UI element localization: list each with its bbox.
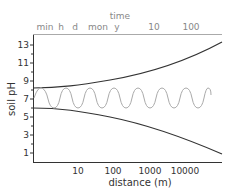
svg-text:h: h xyxy=(58,22,64,32)
svg-text:10000: 10000 xyxy=(171,166,200,176)
svg-text:3: 3 xyxy=(23,130,29,140)
svg-text:mon: mon xyxy=(88,22,108,32)
svg-text:d: d xyxy=(72,22,78,32)
y-axis-ticks xyxy=(30,45,33,153)
upper-envelope-line xyxy=(33,42,222,88)
chart: time min h d mon y 10 100 13 11 9 7 5 3 … xyxy=(0,0,233,195)
svg-text:7: 7 xyxy=(23,94,29,104)
x-axis-labels: 10 100 1000 10000 xyxy=(72,166,199,176)
svg-text:5: 5 xyxy=(23,112,29,122)
svg-text:min: min xyxy=(37,22,54,32)
top-axis-title: time xyxy=(110,11,131,21)
svg-text:y: y xyxy=(114,22,120,32)
svg-text:1000: 1000 xyxy=(139,166,162,176)
svg-text:100: 100 xyxy=(182,22,199,32)
svg-text:100: 100 xyxy=(104,166,121,176)
svg-text:10: 10 xyxy=(148,22,160,32)
y-axis-labels: 13 11 9 7 5 3 1 xyxy=(18,40,30,158)
svg-text:9: 9 xyxy=(23,76,29,86)
y-axis-title: soil pH xyxy=(6,82,17,116)
lower-envelope-line xyxy=(33,108,222,154)
top-axis-ticks: min h d mon y 10 100 xyxy=(37,22,200,32)
svg-text:10: 10 xyxy=(72,166,84,176)
ph-oscillation-line xyxy=(34,88,211,108)
svg-text:13: 13 xyxy=(18,40,29,50)
svg-text:11: 11 xyxy=(18,58,29,68)
x-axis-title: distance (m) xyxy=(108,177,171,188)
svg-text:1: 1 xyxy=(23,148,29,158)
